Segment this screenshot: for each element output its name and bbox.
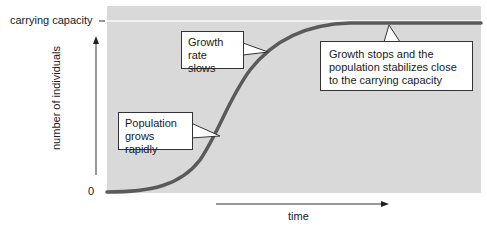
callout-stops: Growth stops and the population stabiliz… xyxy=(320,41,473,91)
callout-rapid: Population grows rapidly xyxy=(118,112,193,150)
callout-slows-text: Growth rate slows xyxy=(188,36,223,74)
x-arrowhead-icon xyxy=(381,201,389,207)
callout-rapid-text: Population grows rapidly xyxy=(125,117,177,155)
y-arrowhead-icon xyxy=(93,36,99,44)
callout-stops-text: Growth stops and the population stabiliz… xyxy=(329,48,457,86)
callout-slows: Growth rate slows xyxy=(181,31,244,69)
callout-pointer-stops xyxy=(384,25,400,42)
